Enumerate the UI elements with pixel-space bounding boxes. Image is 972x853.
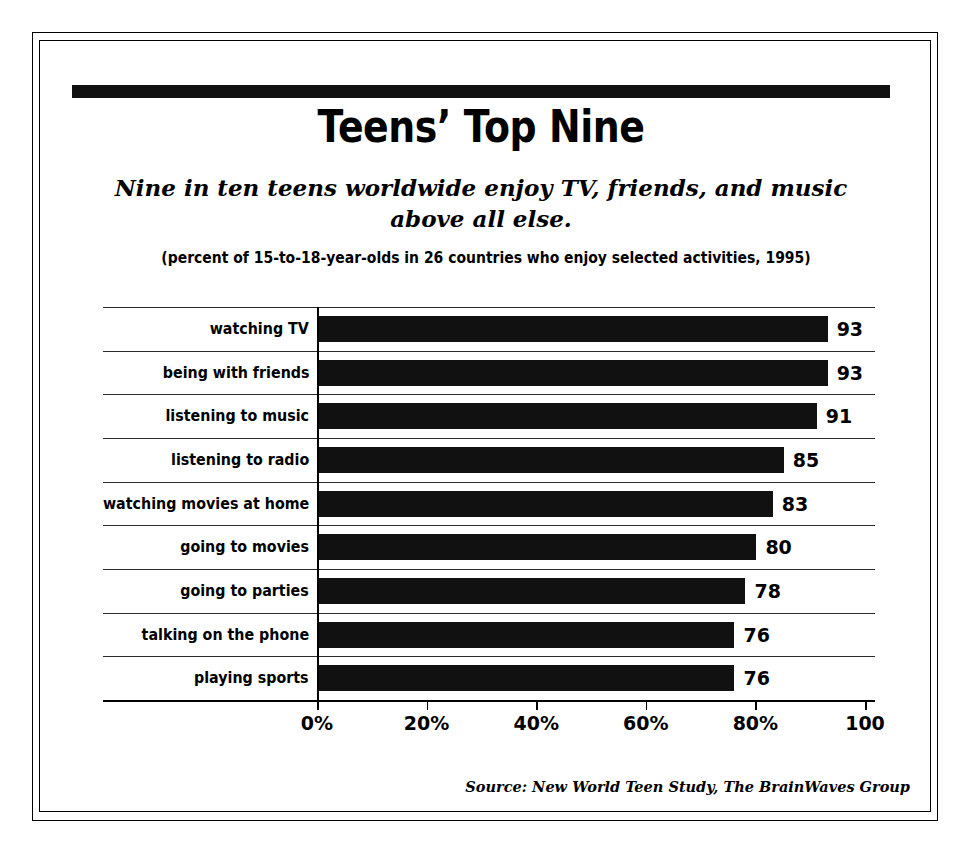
gridline	[103, 656, 875, 657]
gridline	[103, 307, 875, 308]
chart-figure: Teens’ Top Nine Nine in ten teens worldw…	[0, 0, 972, 853]
bar	[318, 403, 817, 429]
x-tick-label: 100	[845, 712, 885, 734]
x-tick-label: 80%	[733, 712, 778, 734]
bar-value-label: 78	[754, 580, 780, 602]
bar-category-label: watching TV	[201, 320, 309, 338]
x-axis-line	[103, 700, 875, 702]
chart-title: Teens’ Top Nine	[129, 101, 832, 153]
bar-category-label: listening to radio	[159, 451, 309, 469]
x-tick-label: 60%	[623, 712, 668, 734]
bar-category-label: going to parties	[169, 582, 309, 600]
bar	[318, 578, 745, 604]
bar-value-label: 93	[837, 362, 863, 384]
plot-area: watching TV93being with friends93listeni…	[103, 307, 875, 700]
bar-row: being with friends93	[103, 351, 875, 395]
bar	[318, 447, 784, 473]
source-note: Source: New World Teen Study, The BrainW…	[465, 778, 910, 795]
gridline	[103, 394, 875, 395]
bar	[318, 316, 828, 342]
x-tick-label: 20%	[404, 712, 449, 734]
bar-value-label: 76	[743, 624, 769, 646]
header-rule	[72, 85, 890, 98]
x-tick-label: 40%	[513, 712, 558, 734]
x-tick-label: 0%	[301, 712, 333, 734]
bar-category-label: going to movies	[169, 538, 309, 556]
y-axis-line	[317, 307, 319, 700]
bar-value-label: 80	[765, 536, 791, 558]
bar-value-label: 83	[782, 493, 808, 515]
bar-row: watching TV93	[103, 307, 875, 351]
chart-units-note: (percent of 15-to-18-year-olds in 26 cou…	[121, 249, 852, 267]
x-tick	[865, 700, 867, 710]
x-tick	[646, 700, 648, 710]
x-tick	[317, 700, 319, 710]
gridline	[103, 482, 875, 483]
gridline	[103, 569, 875, 570]
bar-value-label: 85	[793, 449, 819, 471]
bar-value-label: 76	[743, 667, 769, 689]
bar-row: listening to radio85	[103, 438, 875, 482]
x-tick	[427, 700, 429, 710]
bar	[318, 360, 828, 386]
gridline	[103, 525, 875, 526]
bar	[318, 622, 734, 648]
bar-row: talking on the phone76	[103, 613, 875, 657]
chart-subtitle: Nine in ten teens worldwide enjoy TV, fr…	[96, 172, 866, 234]
bar-row: listening to music91	[103, 394, 875, 438]
bar	[318, 665, 734, 691]
gridline	[103, 613, 875, 614]
bar-category-label: talking on the phone	[127, 626, 309, 644]
bar-category-label: watching movies at home	[85, 495, 309, 513]
bar-value-label: 93	[837, 318, 863, 340]
bar-row: going to movies80	[103, 525, 875, 569]
bar-category-label: being with friends	[150, 364, 310, 382]
gridline	[103, 351, 875, 352]
gridline	[103, 438, 875, 439]
x-tick	[536, 700, 538, 710]
bar-category-label: playing sports	[184, 669, 309, 687]
bar-row: playing sports76	[103, 656, 875, 700]
bar	[318, 491, 773, 517]
bar-row: going to parties78	[103, 569, 875, 613]
bar-value-label: 91	[826, 405, 852, 427]
bar-category-label: listening to music	[153, 407, 309, 425]
bar	[318, 534, 756, 560]
bar-row: watching movies at home83	[103, 482, 875, 526]
x-tick	[755, 700, 757, 710]
